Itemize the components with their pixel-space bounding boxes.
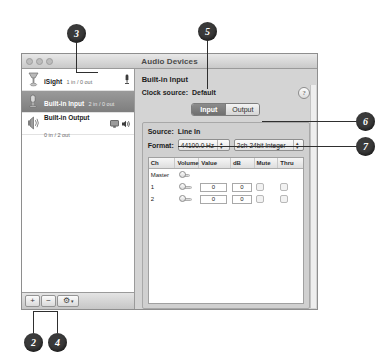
value-input[interactable]: 0 bbox=[200, 183, 227, 192]
header-mute: Mute bbox=[255, 158, 279, 168]
bit-format-select[interactable]: 2ch-24bit Integer ▴▾ bbox=[234, 139, 304, 151]
callout-4-leader bbox=[57, 311, 58, 333]
callout-7: 7 bbox=[356, 137, 375, 156]
mute-cell bbox=[254, 181, 278, 193]
device-badges bbox=[124, 74, 131, 85]
device-sidebar: iSight 1 in / 0 out bbox=[22, 69, 135, 309]
callout-3-leader-h bbox=[76, 72, 98, 73]
volume-slider[interactable] bbox=[178, 193, 198, 205]
table-row: 2 0 0 bbox=[149, 193, 303, 205]
device-name: iSight bbox=[44, 78, 62, 85]
callout-5: 5 bbox=[198, 22, 217, 41]
value-cell: 0 bbox=[198, 181, 230, 193]
callout-2: 2 bbox=[24, 333, 43, 352]
source-row: Source: Line In bbox=[148, 128, 304, 135]
source-value[interactable]: Line In bbox=[178, 128, 201, 135]
help-button[interactable]: ? bbox=[298, 87, 310, 99]
chevron-down-icon: ▾ bbox=[71, 299, 74, 304]
callout-3: 3 bbox=[67, 24, 86, 43]
detail-device-heading: Built-in Input bbox=[142, 75, 310, 84]
value-cell: 0 bbox=[198, 193, 230, 205]
callout-24-leader-h bbox=[33, 311, 57, 312]
input-settings-box: Source: Line In Format: 44100.0 Hz ▴▾ 2c… bbox=[142, 122, 310, 309]
callout-4: 4 bbox=[48, 333, 67, 352]
device-badges bbox=[110, 120, 131, 128]
clock-source-value[interactable]: Default bbox=[192, 89, 216, 96]
header-ch: Ch bbox=[149, 158, 176, 168]
speaker-icon bbox=[121, 120, 130, 128]
device-detail-panel: Built-in Input Clock source: Default ? I… bbox=[135, 69, 317, 309]
slider-knob[interactable] bbox=[179, 171, 186, 178]
header-thru: Thru bbox=[278, 158, 303, 168]
device-name: Built-in Output bbox=[44, 114, 89, 121]
callout-6-leader bbox=[262, 121, 356, 122]
thru-cell bbox=[278, 181, 303, 193]
header-db: dB bbox=[231, 158, 255, 168]
thru-cell bbox=[278, 169, 303, 181]
remove-device-button[interactable]: − bbox=[41, 295, 56, 307]
device-list: iSight 1 in / 0 out bbox=[22, 69, 134, 292]
channel-label: Master bbox=[149, 169, 176, 181]
table-row: Master bbox=[149, 169, 303, 181]
volume-slider[interactable] bbox=[178, 181, 198, 193]
device-text: Built-in Output 0 in / 2 out bbox=[44, 107, 110, 141]
thru-checkbox[interactable] bbox=[280, 183, 288, 191]
sidebar-toolbar: + − ⚙ ▾ bbox=[22, 292, 134, 309]
volume-slider-cell[interactable] bbox=[176, 193, 198, 205]
mute-cell bbox=[254, 169, 278, 181]
sample-rate-value: 44100.0 Hz bbox=[181, 142, 214, 149]
window-title: Audio Devices bbox=[22, 57, 317, 66]
thru-checkbox[interactable] bbox=[280, 195, 288, 203]
db-input[interactable]: 0 bbox=[232, 195, 252, 204]
io-tabs-wrap: Input Output bbox=[142, 103, 310, 116]
volume-slider-cell[interactable] bbox=[176, 181, 198, 193]
io-tabs: Input Output bbox=[191, 103, 260, 116]
clock-source-row: Clock source: Default bbox=[142, 89, 310, 96]
channel-label: 1 bbox=[149, 181, 176, 193]
isight-camera-icon bbox=[25, 71, 41, 88]
display-icon bbox=[110, 120, 119, 128]
source-label: Source: bbox=[148, 128, 174, 135]
channel-table-header: Ch Volume Value dB Mute Thru bbox=[149, 158, 303, 169]
device-row-built-in-output[interactable]: Built-in Output 0 in / 2 out bbox=[22, 113, 134, 135]
header-volume: Volume bbox=[175, 158, 199, 168]
callout-3-leader bbox=[76, 43, 77, 73]
gear-icon: ⚙ bbox=[63, 297, 70, 305]
window-titlebar[interactable]: Audio Devices bbox=[22, 54, 317, 69]
value-cell bbox=[198, 169, 230, 181]
callout-6: 6 bbox=[356, 112, 375, 131]
db-cell: 0 bbox=[230, 193, 254, 205]
slider-knob[interactable] bbox=[179, 183, 186, 190]
format-label: Format: bbox=[148, 142, 174, 149]
header-value: Value bbox=[199, 158, 231, 168]
device-text: iSight 1 in / 0 out bbox=[44, 71, 124, 88]
volume-slider[interactable] bbox=[178, 169, 198, 181]
sample-rate-select[interactable]: 44100.0 Hz ▴▾ bbox=[178, 139, 230, 151]
device-channels: 1 in / 0 out bbox=[67, 79, 93, 85]
db-cell: 0 bbox=[230, 181, 254, 193]
table-row: 1 0 0 bbox=[149, 181, 303, 193]
chevron-down-icon: ▴▾ bbox=[217, 140, 225, 150]
clock-source-label: Clock source: bbox=[142, 89, 188, 96]
callout-5-leader bbox=[207, 41, 208, 89]
device-action-menu-button[interactable]: ⚙ ▾ bbox=[57, 295, 79, 307]
chevron-down-icon: ▴▾ bbox=[293, 140, 301, 150]
db-input[interactable]: 0 bbox=[232, 183, 252, 192]
tab-output[interactable]: Output bbox=[225, 104, 259, 115]
microphone-icon bbox=[25, 93, 41, 110]
add-device-button[interactable]: + bbox=[25, 295, 40, 307]
mute-checkbox[interactable] bbox=[256, 195, 264, 203]
mute-checkbox[interactable] bbox=[256, 183, 264, 191]
format-row: Format: 44100.0 Hz ▴▾ 2ch-24bit Integer … bbox=[148, 139, 304, 151]
tab-input[interactable]: Input bbox=[192, 104, 225, 115]
thru-cell bbox=[278, 193, 303, 205]
volume-slider-cell[interactable] bbox=[176, 169, 198, 181]
audio-devices-window: Audio Devices iSight 1 in / bbox=[21, 53, 318, 310]
slider-knob[interactable] bbox=[179, 195, 186, 202]
window-body: iSight 1 in / 0 out bbox=[22, 69, 317, 309]
value-input[interactable]: 0 bbox=[200, 195, 227, 204]
device-channels: 0 in / 2 out bbox=[44, 132, 70, 138]
callout-7-leader bbox=[178, 146, 356, 147]
bit-format-value: 2ch-24bit Integer bbox=[237, 142, 286, 149]
microphone-icon bbox=[124, 74, 130, 85]
